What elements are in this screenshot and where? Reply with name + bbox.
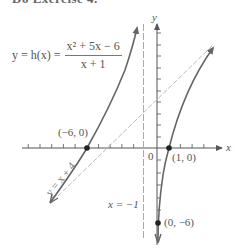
point-neg6-0 [84,145,90,151]
curve-right-branch [158,48,213,241]
x-axis [22,144,222,148]
equation-lhs: y = h(x) = [12,48,61,63]
equation-numerator: x² + 5x − 6 [65,39,122,56]
graph [0,0,238,252]
x-axis-label: x [226,141,231,153]
equation-fraction: x² + 5x − 6 x + 1 [65,39,122,72]
point-0-neg6 [155,220,161,226]
point-label-1-0: (1, 0) [172,151,196,163]
equation: y = h(x) = x² + 5x − 6 x + 1 [12,39,122,72]
point-label-neg6-0: (−6, 0) [58,126,88,138]
origin-label: 0 [148,150,154,162]
equation-denominator: x + 1 [81,56,106,72]
vertical-asymptote-label: x = −1 [108,198,139,210]
point-1-0 [166,145,172,151]
y-axis-label: y [152,11,157,23]
point-label-0-neg6: (0, −6) [164,216,194,228]
